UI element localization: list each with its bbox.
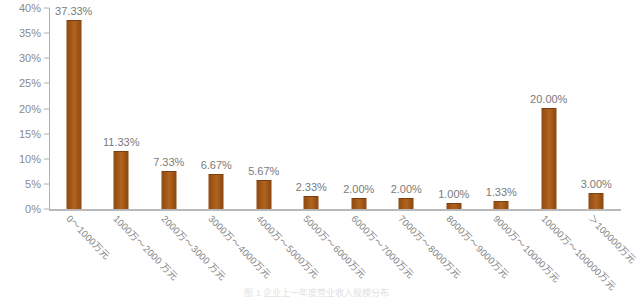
- y-tick-label: 35%: [19, 28, 41, 39]
- x-label-slot: 5000万～6000万元: [288, 211, 336, 291]
- x-label-slot: 3000万～4000万元: [193, 211, 241, 291]
- y-tick-mark: [44, 158, 49, 159]
- y-tick-label: 25%: [19, 78, 41, 89]
- bar-slot: 6.67%: [193, 8, 241, 209]
- bar-slot: 2.00%: [335, 8, 383, 209]
- bar[interactable]: [304, 196, 319, 209]
- y-tick-label: 40%: [19, 3, 41, 14]
- bar[interactable]: [66, 20, 81, 209]
- bar-value-label: 1.33%: [486, 187, 517, 198]
- bar-slot: 2.00%: [383, 8, 431, 209]
- x-label-slot: 2000万～3000 万元: [145, 211, 193, 291]
- y-tick-label: 30%: [19, 53, 41, 64]
- bar-value-label: 6.67%: [201, 160, 232, 171]
- y-tick-label: 10%: [19, 153, 41, 164]
- bar-value-label: 3.00%: [581, 179, 612, 190]
- bar[interactable]: [256, 180, 271, 209]
- bar[interactable]: [494, 201, 509, 209]
- x-axis: 0～1000万元1000万～2000 万元2000万～3000 万元3000万～…: [50, 211, 620, 291]
- x-label-slot: 9000万～10000万元: [478, 211, 526, 291]
- bar-value-label: 1.00%: [438, 189, 469, 200]
- bar-value-label: 7.33%: [153, 157, 184, 168]
- bar-value-label: 2.33%: [296, 182, 327, 193]
- y-tick-label: 0%: [25, 204, 41, 215]
- bar[interactable]: [541, 108, 556, 210]
- y-tick-label: 15%: [19, 128, 41, 139]
- bar[interactable]: [114, 151, 129, 209]
- y-tick-mark: [44, 83, 49, 84]
- x-label-slot: 6000万～7000万元: [335, 211, 383, 291]
- bar[interactable]: [351, 198, 366, 209]
- x-label-slot: 0～1000万元: [50, 211, 98, 291]
- plot-area: 37.33%11.33%7.33%6.67%5.67%2.33%2.00%2.0…: [50, 8, 620, 209]
- bar-slot: 20.00%: [525, 8, 573, 209]
- bar-slot: 7.33%: [145, 8, 193, 209]
- bar-slot: 11.33%: [98, 8, 146, 209]
- y-tick-mark: [44, 33, 49, 34]
- y-tick-label: 5%: [25, 178, 41, 189]
- bar-value-label: 5.67%: [248, 166, 279, 177]
- x-label-slot: 8000万～9000万元: [430, 211, 478, 291]
- bar-slot: 3.00%: [573, 8, 621, 209]
- bar[interactable]: [209, 174, 224, 209]
- bar-slot: 5.67%: [240, 8, 288, 209]
- x-label-slot: 7000万～8000万元: [383, 211, 431, 291]
- x-label-slot: 4000万～5000万元: [240, 211, 288, 291]
- y-tick-mark: [44, 8, 49, 9]
- bar[interactable]: [589, 193, 604, 209]
- x-tick-label: ＞100000万元: [586, 213, 639, 266]
- bar[interactable]: [161, 171, 176, 209]
- y-tick-mark: [44, 133, 49, 134]
- bar[interactable]: [399, 198, 414, 209]
- chart-caption: 图 1 企业上一年度营业收入规模分布: [0, 288, 634, 299]
- bar-slot: 1.00%: [430, 8, 478, 209]
- x-label-slot: 10000万～100000万元: [525, 211, 573, 291]
- bar-value-label: 2.00%: [343, 184, 374, 195]
- y-axis: 0%5%10%15%20%25%30%35%40%: [0, 0, 44, 215]
- x-label-slot: 1000万～2000 万元: [98, 211, 146, 291]
- y-tick-label: 20%: [19, 103, 41, 114]
- x-label-slot: ＞100000万元: [573, 211, 621, 291]
- bar-value-label: 20.00%: [530, 94, 567, 105]
- bar-value-label: 37.33%: [55, 6, 92, 17]
- bar-slot: 2.33%: [288, 8, 336, 209]
- bar-slot: 1.33%: [478, 8, 526, 209]
- bar-value-label: 11.33%: [103, 137, 140, 148]
- y-tick-mark: [44, 209, 49, 210]
- bar-slot: 37.33%: [50, 8, 98, 209]
- y-tick-mark: [44, 183, 49, 184]
- y-tick-mark: [44, 108, 49, 109]
- bar-value-label: 2.00%: [391, 184, 422, 195]
- y-tick-mark: [44, 58, 49, 59]
